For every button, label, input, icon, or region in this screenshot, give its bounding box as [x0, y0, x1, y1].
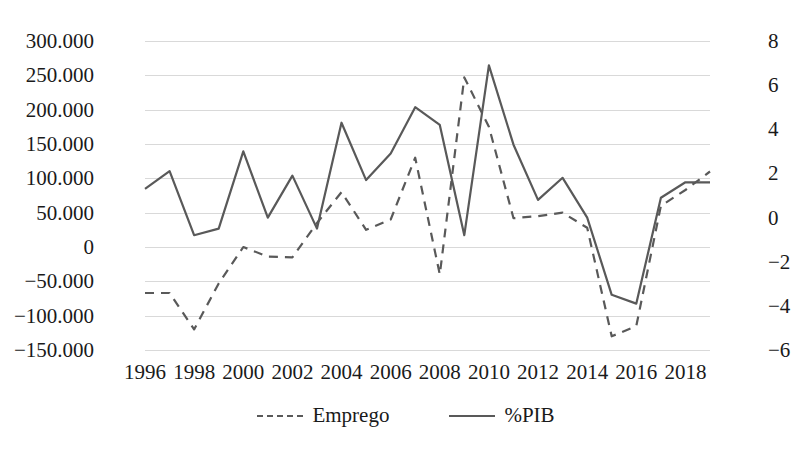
series-plot [0, 0, 812, 461]
legend-item-emprego: Emprego [257, 405, 389, 426]
legend-item-pib: %PIB [449, 405, 554, 426]
legend-swatch-dashed-icon [257, 415, 303, 417]
series-line-pib [145, 65, 710, 303]
legend-label-emprego: Emprego [312, 405, 389, 426]
legend-label-pib: %PIB [504, 405, 554, 426]
legend-swatch-solid-icon [449, 415, 495, 417]
chart-container: 300.000250.000200.000150.000100.00050.00… [0, 0, 812, 461]
chart-legend: Emprego %PIB [0, 405, 812, 426]
